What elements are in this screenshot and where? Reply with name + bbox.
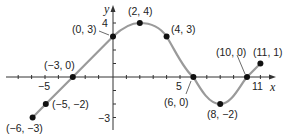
function-graph: y x −5 5 11 4 −3 (−6, −3) (−5, −2) (−3, …	[0, 0, 283, 136]
point-4-3	[164, 34, 170, 40]
y-axis-arrow-icon	[111, 5, 116, 12]
point-label-m5-m2: (−5, −2)	[52, 98, 89, 110]
x-tick-label-11: 11	[252, 80, 263, 92]
x-axis-label: x	[269, 80, 276, 94]
point-m3-0	[70, 74, 76, 80]
point-label-0-3: (0, 3)	[72, 23, 97, 35]
point-0-3	[110, 34, 116, 40]
point-8-m2	[217, 101, 223, 107]
point-label-10-0: (10, 0)	[216, 46, 246, 58]
point-2-4	[137, 20, 143, 26]
y-axis-label: y	[103, 2, 110, 16]
point-label-m6-m3: (−6, −3)	[6, 122, 43, 134]
x-tick-label-5: 5	[176, 80, 182, 92]
point-m6-m3	[30, 115, 36, 121]
point-m5-m2	[43, 101, 49, 107]
y-tick-label-neg3: −3	[98, 112, 110, 124]
point-label-4-3: (4, 3)	[171, 23, 196, 35]
point-label-2-4: (2, 4)	[128, 5, 153, 17]
leader-lines	[99, 31, 245, 94]
point-label-m3-0: (−3, 0)	[44, 59, 75, 71]
y-tick-label-4: 4	[102, 17, 108, 29]
point-label-11-1: (11, 1)	[253, 46, 283, 58]
point-11-1	[257, 61, 263, 67]
x-tick-label-neg5: −5	[38, 80, 50, 92]
point-label-6-0: (6, 0)	[164, 96, 189, 108]
x-axis-arrow-icon	[269, 75, 276, 80]
point-10-0	[244, 74, 250, 80]
point-6-0	[190, 74, 196, 80]
point-label-8-m2: (8, −2)	[207, 108, 238, 120]
